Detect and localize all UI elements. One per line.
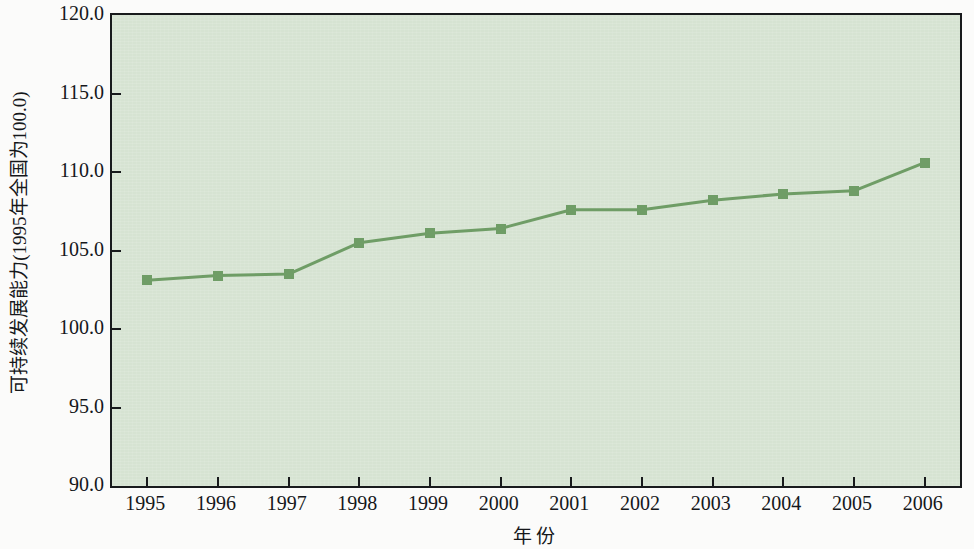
x-axis-tick (570, 477, 572, 486)
plot-inner (112, 15, 960, 486)
data-point-marker (566, 205, 576, 215)
y-axis-tick (112, 171, 121, 173)
x-axis-tick (500, 477, 502, 486)
data-point-marker (425, 228, 435, 238)
data-point-marker (142, 275, 152, 285)
y-axis-tick (112, 407, 121, 409)
x-axis-tick (924, 477, 926, 486)
data-point-marker (708, 195, 718, 205)
x-axis-tick (853, 477, 855, 486)
data-point-marker (284, 269, 294, 279)
x-axis-tick (217, 477, 219, 486)
data-point-marker (849, 186, 859, 196)
y-axis-tick-label: 90.0 (30, 474, 104, 494)
data-point-marker (496, 224, 506, 234)
x-axis-title: 年 份 (110, 521, 958, 548)
x-axis-tick (641, 477, 643, 486)
x-axis-tick (146, 477, 148, 486)
chart-figure: 可持续发展能力(1995年全国为100.0) 120.0115.0110.010… (0, 0, 974, 549)
data-point-marker (354, 238, 364, 248)
x-axis-tick-label: 2006 (878, 492, 968, 515)
plot-area (110, 13, 962, 488)
y-axis-tick-label: 120.0 (30, 3, 104, 23)
series-line (112, 15, 960, 486)
y-axis-tick-label: 115.0 (30, 82, 104, 102)
x-axis-tick (429, 477, 431, 486)
x-axis-tick (712, 477, 714, 486)
x-axis-tick (288, 477, 290, 486)
y-axis-tick (112, 250, 121, 252)
x-axis-tick-labels: 1995199619971998199920002001200220032004… (110, 492, 958, 520)
y-axis-tick (112, 328, 121, 330)
x-axis-tick (782, 477, 784, 486)
data-point-marker (213, 271, 223, 281)
y-axis-tick-label: 100.0 (30, 317, 104, 337)
data-point-marker (637, 205, 647, 215)
y-axis-tick (112, 93, 121, 95)
y-axis-title: 可持续发展能力(1995年全国为100.0) (4, 91, 31, 393)
y-axis-tick-labels: 120.0115.0110.0105.0100.095.090.0 (28, 0, 104, 549)
y-axis-tick-label: 110.0 (30, 160, 104, 180)
y-axis-tick-label: 95.0 (30, 396, 104, 416)
y-axis-tick-label: 105.0 (30, 239, 104, 259)
x-axis-tick (358, 477, 360, 486)
data-point-marker (920, 158, 930, 168)
data-point-marker (778, 189, 788, 199)
